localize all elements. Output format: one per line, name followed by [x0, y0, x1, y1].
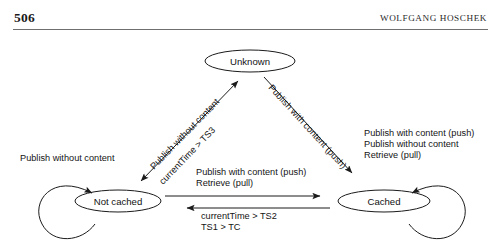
header-divider	[13, 29, 488, 30]
label-mid-top-line-2: Retrieve (pull)	[196, 178, 253, 188]
node-not-cached[interactable]: Not cached	[75, 190, 161, 212]
node-unknown[interactable]: Unknown	[205, 50, 295, 72]
running-head-author: WOLFGANG HOSCHEK	[380, 13, 487, 23]
label-cached-loop-line-2: Publish without content	[364, 139, 459, 149]
label-mid-top-line-1: Publish with content (push)	[196, 167, 306, 177]
label-mid-bottom-line-2: TS1 > TC	[201, 222, 241, 232]
node-cached[interactable]: Cached	[338, 190, 430, 212]
label-diag-right-line-1: Publish with content (push)	[267, 83, 349, 171]
state-transition-diagram: Unknown Not cached Cached	[0, 34, 501, 250]
label-mid-bottom-line-1: currentTime > TS2	[201, 211, 277, 221]
node-unknown-label: Unknown	[230, 56, 270, 67]
label-cached-loop-line-3: Retrieve (pull)	[364, 150, 421, 160]
diagram-svg: Unknown Not cached Cached	[0, 34, 501, 250]
node-cached-label: Cached	[367, 196, 400, 207]
page-number: 506	[14, 10, 35, 26]
page-canvas: 506 WOLFGANG HOSCHEK Unknown Not cached	[0, 0, 501, 250]
label-not-cached-self-loop: Publish without content	[20, 153, 115, 163]
page-header: 506 WOLFGANG HOSCHEK	[0, 0, 501, 34]
node-not-cached-label: Not cached	[94, 196, 143, 207]
label-cached-loop-line-1: Publish with content (push)	[364, 128, 474, 138]
